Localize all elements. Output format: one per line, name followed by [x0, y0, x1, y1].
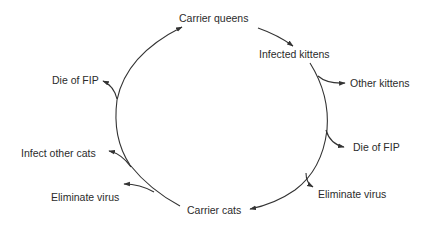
node-carrier-cats: Carrier cats — [187, 204, 241, 216]
node-infected-kittens: Infected kittens — [259, 48, 330, 60]
arrow-to-infect-other-cats — [109, 151, 131, 167]
arrow-kittens-to-carrier-cats — [250, 63, 327, 209]
arrow-to-die-of-fip-right — [326, 130, 344, 147]
arrow-queens-to-kittens — [258, 28, 293, 46]
node-eliminate-virus-right: Eliminate virus — [318, 188, 386, 200]
fip-cycle-diagram: Carrier queens Infected kittens Other ki… — [0, 0, 431, 229]
arrow-to-die-of-fip-left — [103, 81, 117, 99]
node-die-of-fip-right: Die of FIP — [353, 141, 400, 153]
arrow-carrier-cats-to-queens — [116, 27, 182, 206]
node-eliminate-virus-left: Eliminate virus — [51, 191, 119, 203]
node-infect-other-cats: Infect other cats — [21, 147, 96, 159]
arrow-to-other-kittens — [318, 76, 345, 83]
node-other-kittens: Other kittens — [350, 77, 410, 89]
node-die-of-fip-left: Die of FIP — [52, 74, 99, 86]
node-carrier-queens: Carrier queens — [179, 12, 248, 24]
